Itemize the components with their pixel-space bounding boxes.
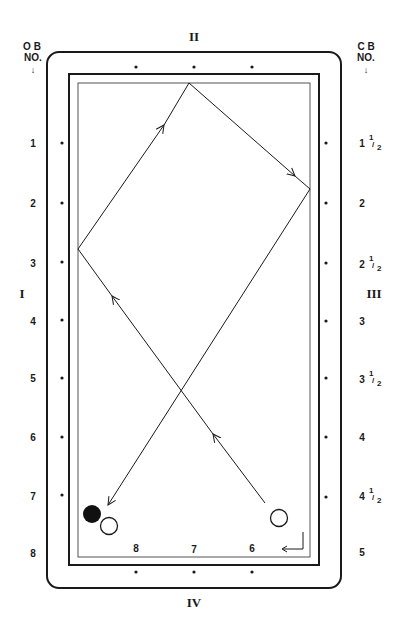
- right-number: 4: [359, 432, 365, 443]
- right-frac-den: 2: [377, 496, 382, 505]
- right-number: 4: [359, 491, 365, 502]
- right-frac-slash: /: [372, 261, 375, 270]
- right-number: 5: [359, 547, 365, 558]
- left-number: 4: [30, 316, 36, 327]
- rail-label-right: III: [366, 286, 381, 301]
- right-frac-slash: /: [372, 140, 375, 149]
- left-number: 1: [30, 138, 36, 149]
- object-ball-black: [83, 505, 101, 523]
- left-diamonds: [60, 141, 63, 496]
- right-frac-slash: /: [372, 493, 375, 502]
- left-header-arrow: ↓: [31, 65, 36, 75]
- left-header-line2: NO.: [24, 52, 42, 63]
- right-header-arrow: ↓: [364, 65, 369, 75]
- table-bed-edge: [69, 74, 319, 565]
- right-frac-den: 2: [377, 264, 382, 273]
- rail-label-left: I: [19, 286, 24, 301]
- right-number: 2: [359, 198, 365, 209]
- right-diamonds: [324, 141, 327, 498]
- right-number: 2: [359, 259, 365, 270]
- rail-label-bottom: IV: [187, 595, 202, 610]
- bottom-number: 8: [133, 543, 139, 554]
- right-number: 3: [359, 374, 365, 385]
- right-header-line1: C B: [357, 41, 374, 52]
- bottom-number: 7: [191, 544, 197, 555]
- left-number: 5: [30, 373, 36, 384]
- left-number-column: 1 2 3 4 5 6 7 8: [30, 138, 36, 559]
- right-frac-den: 2: [377, 143, 382, 152]
- left-number: 3: [30, 258, 36, 269]
- cue-ball-start: [271, 510, 288, 527]
- right-frac-slash: /: [372, 376, 375, 385]
- bottom-number: 6: [249, 543, 255, 554]
- bottom-number-row: 8 7 6: [133, 543, 255, 555]
- right-number: 1: [359, 138, 365, 149]
- ball-path: [78, 83, 310, 505]
- cue-ball-near-corner: [101, 518, 118, 535]
- cushion-line: [78, 83, 310, 557]
- left-number: 2: [30, 198, 36, 209]
- left-header-line1: O B: [23, 41, 41, 52]
- return-arrow-icon: [282, 532, 303, 552]
- left-number: 6: [30, 432, 36, 443]
- right-header-line2: NO.: [357, 52, 375, 63]
- left-number: 7: [30, 491, 36, 502]
- right-number-column: 1 1 / 2 2 2 1 / 2 3 3 1 / 2 4 4 1 / 2 5: [359, 133, 382, 558]
- right-frac-den: 2: [377, 379, 382, 388]
- top-diamonds: [134, 65, 253, 68]
- bottom-diamonds: [134, 570, 253, 573]
- rail-label-top: II: [189, 29, 199, 44]
- right-number: 3: [359, 316, 365, 327]
- billiard-diagram: O B NO. ↓ C B NO. ↓ II I III IV 1 2 3 4 …: [0, 0, 401, 641]
- left-number: 8: [30, 548, 36, 559]
